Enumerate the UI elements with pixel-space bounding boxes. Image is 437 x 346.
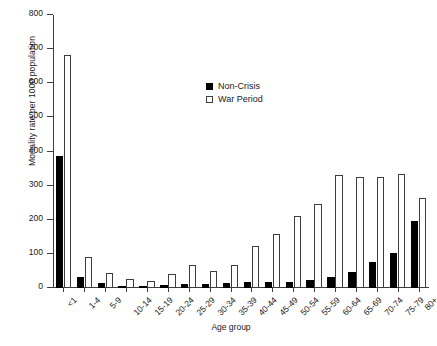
x-axis-tick <box>251 288 252 292</box>
y-axis-tick-label: 100 <box>29 247 43 257</box>
bar-war-period <box>126 279 133 288</box>
y-axis-tick-label: 600 <box>29 76 43 86</box>
bar-war-period <box>252 246 259 288</box>
x-axis-tick <box>63 288 64 292</box>
x-axis-tick <box>147 288 148 292</box>
x-axis-tick-label: 40-44 <box>257 295 279 317</box>
y-axis-line <box>53 15 54 288</box>
y-axis-tick-label: 700 <box>29 42 43 52</box>
x-axis-tick <box>314 288 315 292</box>
bar-non-crisis <box>286 282 293 288</box>
bar-non-crisis <box>118 286 125 288</box>
bar-non-crisis <box>98 283 105 288</box>
y-axis-tick: 600 <box>47 82 53 83</box>
x-axis-tick-label: 10-14 <box>131 295 153 317</box>
bar-non-crisis <box>390 253 397 288</box>
legend-label-non-crisis: Non-Crisis <box>218 80 260 93</box>
x-axis-tick <box>377 288 378 292</box>
y-axis-tick: 300 <box>47 185 53 186</box>
bar-war-period <box>314 204 321 288</box>
y-axis-tick: 700 <box>47 48 53 49</box>
x-axis-tick-label: 45-49 <box>278 295 300 317</box>
x-axis-tick-label: 50-54 <box>299 295 321 317</box>
x-axis-tick-label: 1-4 <box>87 295 103 311</box>
plot-area: 0100200300400500600700800 <11-45-910-141… <box>53 15 429 288</box>
bar-war-period <box>210 271 217 288</box>
y-axis-tick-label: 300 <box>29 179 43 189</box>
x-axis-tick <box>84 288 85 292</box>
bar-war-period <box>356 177 363 288</box>
y-axis-tick-label: 400 <box>29 145 43 155</box>
x-axis-tick-label: 65-69 <box>361 295 383 317</box>
y-axis-tick-label: 500 <box>29 110 43 120</box>
legend-item-war-period: War Period <box>206 93 263 106</box>
y-axis-tick: 200 <box>47 219 53 220</box>
bar-non-crisis <box>77 277 84 288</box>
bar-non-crisis <box>223 283 230 288</box>
y-axis-tick: 800 <box>47 14 53 15</box>
x-axis-title: Age group <box>0 322 437 332</box>
x-axis-tick-label: 80+ <box>422 295 437 312</box>
x-axis-tick <box>272 288 273 292</box>
y-axis-tick-label: 800 <box>29 8 43 18</box>
x-axis-tick-label: 70-74 <box>382 295 404 317</box>
x-axis-tick <box>105 288 106 292</box>
x-axis-title-text: Age group <box>211 322 250 332</box>
legend-item-non-crisis: Non-Crisis <box>206 80 263 93</box>
y-axis-tick-label: 200 <box>29 213 43 223</box>
x-axis-tick <box>419 288 420 292</box>
y-axis-tick: 100 <box>47 253 53 254</box>
x-axis-tick <box>168 288 169 292</box>
x-axis-tick <box>335 288 336 292</box>
bar-war-period <box>294 216 301 288</box>
bar-non-crisis <box>244 282 251 288</box>
bar-non-crisis <box>56 156 63 288</box>
x-axis-tick-label: 30-34 <box>215 295 237 317</box>
bar-war-period <box>85 257 92 288</box>
bar-war-period <box>231 265 238 288</box>
legend-label-war-period: War Period <box>218 93 263 106</box>
bar-non-crisis <box>327 277 334 288</box>
bar-war-period <box>398 174 405 288</box>
open-square-icon <box>206 96 213 103</box>
x-axis-tick <box>231 288 232 292</box>
bar-war-period <box>377 177 384 288</box>
x-axis-tick-label: 60-64 <box>340 295 362 317</box>
mortality-bar-chart: Mortality rate per 1000 population 01002… <box>0 0 437 346</box>
bar-war-period <box>106 273 113 288</box>
bar-non-crisis <box>181 284 188 288</box>
x-axis-tick-label: 5-9 <box>108 295 124 311</box>
bar-war-period <box>168 274 175 288</box>
y-axis-title: Mortality rate per 1000 population <box>27 6 37 196</box>
bar-non-crisis <box>348 272 355 288</box>
filled-square-icon <box>206 83 213 90</box>
bar-non-crisis <box>160 285 167 288</box>
x-axis-tick-label: <1 <box>65 295 79 309</box>
bar-war-period <box>419 198 426 288</box>
x-axis-tick <box>210 288 211 292</box>
x-axis-tick <box>189 288 190 292</box>
bar-war-period <box>147 281 154 289</box>
chart-legend: Non-Crisis War Period <box>201 77 269 110</box>
y-axis-tick-label: 0 <box>38 281 43 291</box>
bar-non-crisis <box>139 286 146 288</box>
bar-non-crisis <box>369 262 376 288</box>
bar-war-period <box>335 175 342 288</box>
x-axis-tick <box>356 288 357 292</box>
bar-war-period <box>64 55 71 288</box>
bar-non-crisis <box>202 284 209 288</box>
x-axis-tick-label: 35-39 <box>236 295 258 317</box>
x-axis-tick-label: 15-19 <box>152 295 174 317</box>
x-axis-tick-label: 75-79 <box>403 295 425 317</box>
x-axis-tick-label: 20-24 <box>173 295 195 317</box>
x-axis-tick-label: 25-29 <box>194 295 216 317</box>
x-axis-tick <box>398 288 399 292</box>
x-axis-tick <box>293 288 294 292</box>
y-axis-tick: 500 <box>47 116 53 117</box>
bar-non-crisis <box>306 280 313 288</box>
bar-war-period <box>189 265 196 288</box>
x-axis-tick <box>126 288 127 292</box>
bar-non-crisis <box>265 282 272 288</box>
bar-war-period <box>273 234 280 288</box>
y-axis-tick: 400 <box>47 151 53 152</box>
